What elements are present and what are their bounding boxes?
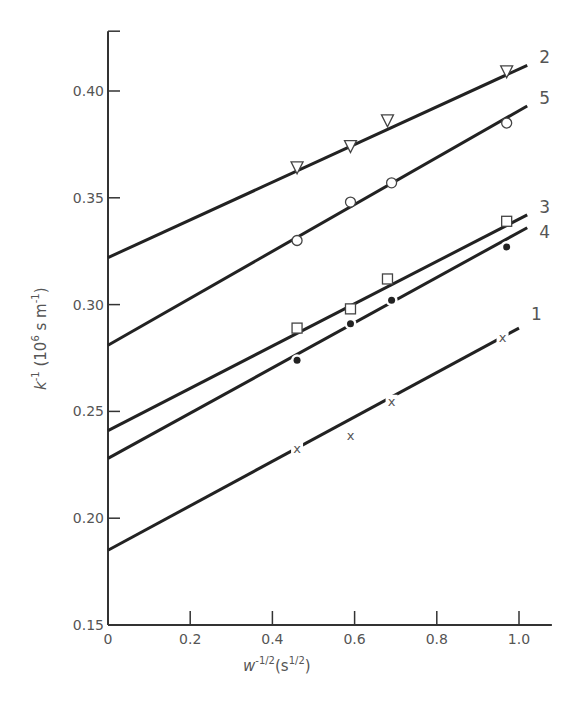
x-tick-label: 0.8 <box>426 631 448 647</box>
square-marker <box>382 274 392 284</box>
x-marker: x <box>499 330 507 345</box>
series-label: 4 <box>539 222 550 242</box>
series-3: 3 <box>108 197 550 431</box>
x-marker: x <box>388 394 396 409</box>
series-4: 4 <box>108 222 550 459</box>
y-tick-label: 0.15 <box>73 617 104 633</box>
y-tick-label: 0.30 <box>73 297 104 313</box>
x-tick-label: 0.4 <box>261 631 283 647</box>
x-tick-label: 0 <box>104 631 113 647</box>
circle-marker <box>387 178 397 188</box>
x-marker: x <box>347 428 355 443</box>
chart-container: 0.150.200.250.300.350.4000.20.40.60.81.0… <box>0 0 577 703</box>
series-5: 5 <box>108 88 550 345</box>
dot-marker <box>294 357 301 364</box>
triangle-marker <box>381 115 393 127</box>
fit-line <box>108 228 527 459</box>
series-1: xxxx1 <box>108 304 542 550</box>
series-label: 5 <box>539 88 550 108</box>
series-label: 1 <box>531 304 542 324</box>
fit-line <box>108 65 527 257</box>
x-tick-label: 0.6 <box>343 631 365 647</box>
dot-marker <box>347 320 354 327</box>
dot-marker <box>388 297 395 304</box>
circle-marker <box>345 197 355 207</box>
fit-line <box>108 328 519 550</box>
series-label: 2 <box>539 47 550 67</box>
square-marker <box>502 216 512 226</box>
circle-marker <box>292 236 302 246</box>
square-marker <box>292 323 302 333</box>
y-tick-label: 0.35 <box>73 190 104 206</box>
y-tick-label: 0.25 <box>73 403 104 419</box>
y-axis-label: k-1 (106 s m-1) <box>30 287 50 390</box>
x-tick-label: 0.2 <box>179 631 201 647</box>
x-marker: x <box>293 441 301 456</box>
fit-line <box>108 106 527 345</box>
x-tick-label: 1.0 <box>508 631 530 647</box>
triangle-marker <box>344 141 356 153</box>
series-label: 3 <box>539 197 550 217</box>
y-tick-label: 0.40 <box>73 83 104 99</box>
series-2: 2 <box>108 47 550 257</box>
circle-marker <box>502 118 512 128</box>
axes: 0.150.200.250.300.350.4000.20.40.60.81.0 <box>73 31 552 647</box>
x-axis-label: w-1/2(s1/2) <box>243 655 311 675</box>
plot-area: 0.150.200.250.300.350.4000.20.40.60.81.0… <box>0 0 577 703</box>
fit-line <box>108 215 527 431</box>
square-marker <box>345 304 355 314</box>
y-tick-label: 0.20 <box>73 510 104 526</box>
dot-marker <box>503 243 510 250</box>
